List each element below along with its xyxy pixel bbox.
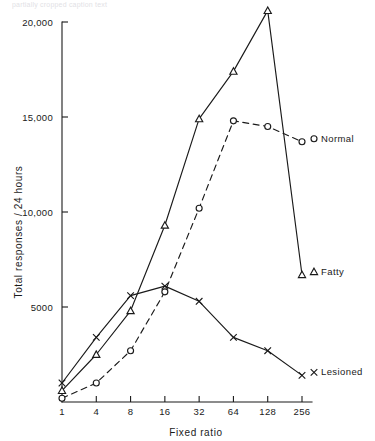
series-normal — [59, 118, 305, 401]
y-tick-label: 10,000 — [22, 207, 53, 218]
series-line-lesioned — [62, 286, 302, 383]
y-tick-label: 5000 — [31, 302, 53, 313]
data-point-lesioned — [264, 347, 271, 354]
figure-container: partially cropped caption text 500010,00… — [0, 0, 375, 441]
axes — [62, 22, 312, 402]
cropped-caption-text: partially cropped caption text — [12, 0, 312, 9]
y-axis-title: Total responses / 24 hours — [13, 166, 24, 299]
x-axis-ticks — [62, 396, 302, 402]
series-label-lesioned: Lesioned — [321, 366, 363, 377]
y-tick-label: 20,000 — [22, 17, 53, 28]
x-tick-label: 32 — [194, 406, 205, 417]
data-point-normal — [162, 289, 168, 295]
data-point-normal — [196, 205, 202, 211]
data-point-normal — [299, 139, 305, 145]
x-axis-tick-labels: 148163264128256 — [59, 406, 310, 417]
data-point-lesioned — [127, 292, 134, 299]
data-point-lesioned — [93, 334, 100, 341]
legend-marker-normal — [311, 136, 317, 142]
series-line-fatty — [62, 11, 302, 391]
y-axis-ticks — [62, 22, 68, 307]
series-fatty — [58, 7, 305, 393]
data-point-normal — [230, 118, 236, 124]
data-point-fatty — [230, 68, 237, 74]
x-axis-title: Fixed ratio — [169, 427, 222, 438]
data-point-normal — [93, 380, 99, 386]
x-tick-label: 64 — [228, 406, 239, 417]
data-point-normal — [265, 124, 271, 130]
data-point-normal — [59, 395, 65, 401]
series-layer — [58, 7, 305, 401]
legend-marker-fatty — [310, 268, 317, 274]
series-label-normal: Normal — [321, 133, 354, 144]
data-point-lesioned — [230, 334, 237, 341]
legend-marker-lesioned — [311, 369, 318, 376]
y-axis-tick-labels: 500010,00015,00020,000 — [22, 17, 53, 313]
y-tick-label: 15,000 — [22, 112, 53, 123]
series-label-fatty: Fatty — [321, 266, 344, 277]
x-tick-label: 16 — [159, 406, 170, 417]
line-chart: 500010,00015,00020,000 148163264128256 T… — [0, 0, 375, 441]
x-tick-label: 128 — [259, 406, 276, 417]
series-lesioned — [59, 283, 306, 387]
data-point-fatty — [161, 222, 168, 228]
data-point-fatty — [298, 271, 305, 277]
data-point-lesioned — [196, 298, 203, 305]
x-tick-label: 1 — [59, 406, 65, 417]
data-point-lesioned — [299, 372, 306, 379]
x-tick-label: 8 — [128, 406, 134, 417]
series-end-labels: NormalFattyLesioned — [310, 133, 362, 378]
data-point-fatty — [127, 307, 134, 313]
x-tick-label: 256 — [294, 406, 311, 417]
data-point-normal — [128, 348, 134, 354]
x-tick-label: 4 — [93, 406, 99, 417]
